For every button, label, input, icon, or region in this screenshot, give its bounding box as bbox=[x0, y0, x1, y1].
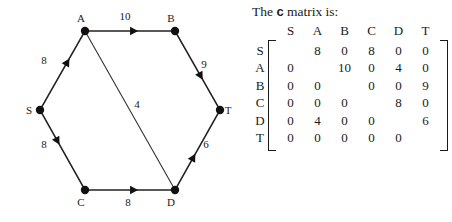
matrix-cell-d-s: 0 bbox=[277, 112, 304, 130]
edge-weight-s-c: 8 bbox=[41, 138, 47, 150]
matrix-caption-symbol: c bbox=[276, 4, 283, 19]
edge-a-d bbox=[87, 35, 173, 187]
matrix-cell-s-b: 0 bbox=[331, 42, 358, 60]
matrix-bracket-box: 8080001004000009000800400600000 bbox=[268, 40, 448, 149]
matrix-caption-suffix: matrix is: bbox=[284, 4, 339, 19]
matrix-cell-d-b: 0 bbox=[331, 112, 358, 130]
matrix-cell-c-t: 0 bbox=[412, 94, 439, 112]
node-t bbox=[216, 106, 224, 114]
matrix-row-header-t: T bbox=[252, 129, 268, 147]
matrix-cell-a-s: 0 bbox=[277, 59, 304, 77]
matrix-cell-t-a: 0 bbox=[304, 129, 331, 147]
matrix-cell-t-t bbox=[412, 129, 439, 147]
arrowhead-a-b bbox=[130, 27, 138, 35]
matrix-row-header-a: A bbox=[252, 59, 268, 77]
matrix-cell-b-t: 9 bbox=[412, 77, 439, 95]
matrix-panel: The c matrix is: SABCDT SABCDT bbox=[248, 0, 452, 222]
matrix-col-header-c: C bbox=[358, 22, 385, 40]
matrix-left-bracket bbox=[268, 40, 276, 151]
figure-root: 81098864SABCDT The c matrix is: SABCDT S… bbox=[0, 0, 452, 222]
matrix-cell-t-d: 0 bbox=[385, 129, 412, 147]
matrix-cell-a-a bbox=[304, 59, 331, 77]
matrix-col-header-d: D bbox=[385, 22, 412, 40]
matrix-cell-c-s: 0 bbox=[277, 94, 304, 112]
matrix-cell-b-a: 0 bbox=[304, 77, 331, 95]
edge-weight-s-a: 8 bbox=[41, 54, 47, 66]
matrix-right-bracket bbox=[440, 40, 448, 151]
matrix-cell-c-d: 8 bbox=[385, 94, 412, 112]
arrowhead-c-d bbox=[130, 186, 138, 194]
graph-diagram: 81098864SABCDT bbox=[0, 0, 240, 222]
matrix-row-header-column: SABCDT bbox=[252, 22, 268, 147]
matrix-cell-b-b bbox=[331, 77, 358, 95]
matrix-row: 00080 bbox=[277, 94, 439, 112]
edge-d-t bbox=[177, 114, 218, 187]
matrix-cell-s-t: 0 bbox=[412, 42, 439, 60]
matrix-body: SABCDT 8080001004000009000800400600000 bbox=[268, 22, 448, 153]
matrix-col-header-b: B bbox=[331, 22, 358, 40]
matrix-column-header-table: SABCDT bbox=[277, 22, 439, 40]
edge-weight-d-t: 6 bbox=[203, 138, 209, 150]
matrix-cell-c-b: 0 bbox=[331, 94, 358, 112]
matrix-table: 8080001004000009000800400600000 bbox=[277, 42, 439, 147]
node-label-d: D bbox=[167, 196, 175, 208]
node-c bbox=[81, 186, 89, 194]
matrix-column-headers: SABCDT bbox=[268, 22, 448, 40]
node-b bbox=[171, 27, 179, 35]
matrix-cell-d-a: 4 bbox=[304, 112, 331, 130]
matrix-col-header-a: A bbox=[304, 22, 331, 40]
matrix-corner-spacer bbox=[252, 22, 268, 40]
node-label-b: B bbox=[167, 12, 174, 24]
matrix-cell-t-s: 0 bbox=[277, 129, 304, 147]
matrix-row: 80800 bbox=[277, 42, 439, 60]
matrix-row-header-b: B bbox=[252, 77, 268, 95]
matrix-row-header-s: S bbox=[252, 42, 268, 60]
node-label-t: T bbox=[225, 104, 232, 116]
matrix-caption-prefix: The bbox=[252, 4, 276, 19]
matrix-cell-d-c: 0 bbox=[358, 112, 385, 130]
matrix-row: 00009 bbox=[277, 77, 439, 95]
node-d bbox=[171, 186, 179, 194]
matrix-row: 04006 bbox=[277, 112, 439, 130]
matrix-cell-t-c: 0 bbox=[358, 129, 385, 147]
matrix-cell-c-a: 0 bbox=[304, 94, 331, 112]
matrix-cell-b-s: 0 bbox=[277, 77, 304, 95]
matrix-cell-s-c: 8 bbox=[358, 42, 385, 60]
matrix-col-header-t: T bbox=[412, 22, 439, 40]
matrix-row-header-d: D bbox=[252, 112, 268, 130]
matrix-table-wrapper: SABCDT SABCDT 80800010040000090008004006… bbox=[252, 22, 448, 153]
matrix-cell-t-b: 0 bbox=[331, 129, 358, 147]
matrix-caption: The c matrix is: bbox=[252, 5, 338, 20]
node-label-c: C bbox=[77, 196, 84, 208]
matrix-cell-c-c bbox=[358, 94, 385, 112]
node-label-s: S bbox=[26, 104, 32, 116]
edge-s-c bbox=[42, 114, 83, 187]
matrix-cell-s-s bbox=[277, 42, 304, 60]
matrix-cell-d-t: 6 bbox=[412, 112, 439, 130]
edge-weight-c-d: 8 bbox=[125, 196, 131, 208]
edge-s-a bbox=[42, 35, 83, 107]
matrix-header-row: SABCDT bbox=[277, 22, 439, 40]
matrix-cell-a-c: 0 bbox=[358, 59, 385, 77]
matrix-grid: 8080001004000009000800400600000 bbox=[268, 40, 448, 149]
matrix-cell-a-b: 10 bbox=[331, 59, 358, 77]
edge-weight-a-d: 4 bbox=[134, 98, 140, 110]
matrix-cell-s-a: 8 bbox=[304, 42, 331, 60]
matrix-cell-s-d: 0 bbox=[385, 42, 412, 60]
matrix-cell-b-d: 0 bbox=[385, 77, 412, 95]
node-a bbox=[81, 27, 89, 35]
graph-canvas: 81098864SABCDT bbox=[0, 0, 240, 222]
matrix-col-header-s: S bbox=[277, 22, 304, 40]
matrix-cell-d-d bbox=[385, 112, 412, 130]
matrix-row: 00000 bbox=[277, 129, 439, 147]
matrix-row-labels: SABCDT bbox=[252, 40, 268, 147]
matrix-cell-a-d: 4 bbox=[385, 59, 412, 77]
matrix-cell-a-t: 0 bbox=[412, 59, 439, 77]
node-label-a: A bbox=[77, 12, 85, 24]
edge-weight-a-b: 10 bbox=[120, 10, 132, 22]
edge-weight-b-t: 9 bbox=[201, 58, 207, 70]
edge-b-t bbox=[177, 35, 218, 107]
node-s bbox=[36, 106, 44, 114]
matrix-row-header-c: C bbox=[252, 94, 268, 112]
matrix-row: 010040 bbox=[277, 59, 439, 77]
